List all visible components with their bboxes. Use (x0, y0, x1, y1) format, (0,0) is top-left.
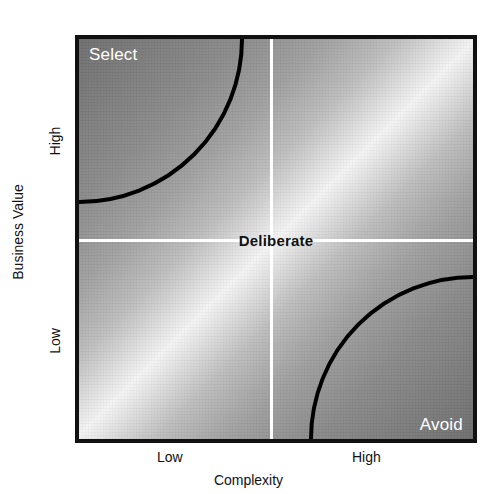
y-axis-tick-high: High (47, 127, 63, 156)
y-axis-tick-low: Low (47, 328, 63, 354)
x-axis-tick-high: High (352, 449, 381, 465)
matrix-plot-area: Select Avoid Deliberate (75, 35, 477, 443)
avoid-quadrant-label: Avoid (420, 415, 463, 435)
deliberate-quadrant-label: Deliberate (230, 232, 323, 249)
x-axis-title: Complexity (0, 472, 497, 488)
x-axis-tick-low: Low (157, 449, 183, 465)
y-axis-title: Business Value (10, 162, 26, 302)
select-quadrant-label: Select (89, 45, 137, 65)
business-value-complexity-matrix: Select Avoid Deliberate Low High Complex… (0, 0, 497, 494)
